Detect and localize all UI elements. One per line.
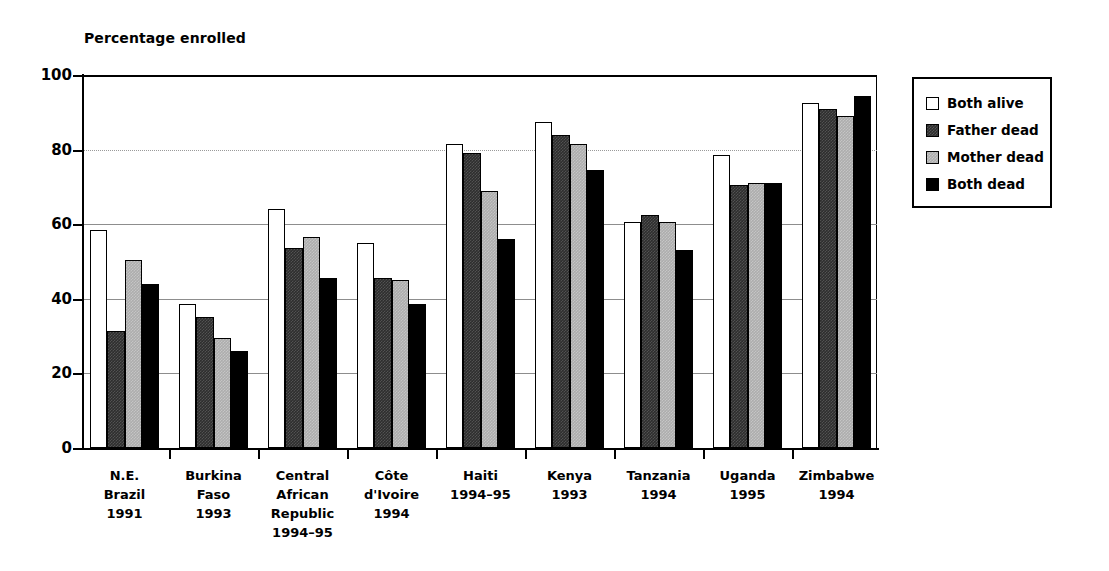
bar — [125, 260, 142, 448]
bar — [481, 191, 498, 448]
bar — [142, 284, 159, 448]
x-axis-label: N.E.Brazil1991 — [76, 466, 173, 523]
x-axis-label-line: Republic — [254, 504, 351, 523]
x-axis-label-line: Tanzania — [610, 466, 707, 485]
y-tick-label-60: 60 — [10, 215, 72, 233]
y-tick-label-40: 40 — [10, 290, 72, 308]
x-axis-label-line: N.E. — [76, 466, 173, 485]
y-tick-label-0: 0 — [10, 439, 72, 457]
bar — [409, 304, 426, 448]
x-tick-mark — [436, 448, 438, 459]
bar-group — [535, 75, 604, 448]
legend-swatch-both-alive — [926, 97, 939, 110]
legend-item-both-dead[interactable]: Both dead — [926, 175, 1040, 193]
bar — [570, 144, 587, 448]
bar-group-bars — [90, 75, 159, 448]
x-axis-label-line: Burkina — [165, 466, 262, 485]
bar — [179, 304, 196, 448]
bar — [535, 122, 552, 448]
x-axis-label-line: Haiti — [432, 466, 529, 485]
y-tick-mark-80 — [73, 150, 82, 152]
x-tick-mark — [703, 448, 705, 459]
y-tick-label-100: 100 — [10, 66, 72, 84]
bar — [624, 222, 641, 448]
bar-group-bars — [713, 75, 782, 448]
y-tick-label-20: 20 — [10, 364, 72, 382]
bar — [392, 280, 409, 448]
x-axis-label: BurkinaFaso1993 — [165, 466, 262, 523]
y-tick-mark-0 — [73, 448, 82, 450]
x-axis-label-line: 1994–95 — [254, 523, 351, 542]
bar-group — [268, 75, 337, 448]
bar — [196, 317, 213, 448]
x-axis-label-line: Central — [254, 466, 351, 485]
bar-group — [713, 75, 782, 448]
bar — [676, 250, 693, 448]
bar — [231, 351, 248, 448]
x-tick-mark — [792, 448, 794, 459]
bar — [659, 222, 676, 448]
plot-area — [82, 75, 877, 448]
legend-swatch-both-dead — [926, 178, 939, 191]
bar-group-bars — [357, 75, 426, 448]
bar — [374, 278, 391, 448]
x-axis-label: Zimbabwe1994 — [788, 466, 885, 504]
x-axis-label-line: 1993 — [165, 504, 262, 523]
legend-label-father-dead: Father dead — [947, 122, 1039, 138]
x-axis-label: CentralAfricanRepublic1994–95 — [254, 466, 351, 542]
bar-groups — [82, 75, 877, 448]
x-axis-line — [82, 448, 879, 450]
x-axis-label: Tanzania1994 — [610, 466, 707, 504]
x-axis-label-line: 1995 — [699, 485, 796, 504]
bar-group-bars — [446, 75, 515, 448]
bar — [713, 155, 730, 448]
legend-item-father-dead[interactable]: Father dead — [926, 121, 1040, 139]
x-tick-mark — [525, 448, 527, 459]
bar — [268, 209, 285, 448]
bar-group-bars — [624, 75, 693, 448]
bar — [748, 183, 765, 448]
legend-label-mother-dead: Mother dead — [947, 149, 1044, 165]
bar — [285, 248, 302, 448]
x-tick-mark — [347, 448, 349, 459]
y-tick-mark-20 — [73, 373, 82, 375]
x-axis-label-line: 1993 — [521, 485, 618, 504]
x-axis-label: Côted'Ivoire1994 — [343, 466, 440, 523]
y-tick-mark-100 — [73, 75, 82, 77]
bar — [730, 185, 747, 448]
y-tick-mark-40 — [73, 299, 82, 301]
bar — [587, 170, 604, 448]
bar — [819, 109, 836, 448]
x-axis-label-line: Uganda — [699, 466, 796, 485]
bar — [854, 96, 871, 448]
x-tick-mark — [169, 448, 171, 459]
bar — [90, 230, 107, 448]
x-axis-label-line: African — [254, 485, 351, 504]
bar — [498, 239, 515, 448]
bar — [837, 116, 854, 448]
x-axis-label-line: Zimbabwe — [788, 466, 885, 485]
bar — [320, 278, 337, 448]
x-axis-label-line: Brazil — [76, 485, 173, 504]
x-tick-mark — [614, 448, 616, 459]
x-axis-label-line: d'Ivoire — [343, 485, 440, 504]
bar-group-bars — [179, 75, 248, 448]
y-tick-mark-60 — [73, 224, 82, 226]
bar — [765, 183, 782, 448]
bar-group — [179, 75, 248, 448]
bar — [357, 243, 374, 448]
legend-label-both-alive: Both alive — [947, 95, 1024, 111]
legend-swatch-mother-dead — [926, 151, 939, 164]
bar — [641, 215, 658, 448]
bar-group — [446, 75, 515, 448]
legend-item-mother-dead[interactable]: Mother dead — [926, 148, 1040, 166]
bar — [802, 103, 819, 448]
bar — [303, 237, 320, 448]
bar — [107, 331, 124, 448]
legend-item-both-alive[interactable]: Both alive — [926, 94, 1040, 112]
x-axis-label: Kenya1993 — [521, 466, 618, 504]
x-axis-label: Uganda1995 — [699, 466, 796, 504]
y-axis-title: Percentage enrolled — [84, 30, 246, 46]
bar — [446, 144, 463, 448]
x-axis-label-line: 1991 — [76, 504, 173, 523]
